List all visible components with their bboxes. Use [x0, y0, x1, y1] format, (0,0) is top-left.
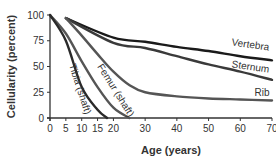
series-label: Tibia (shaft): [67, 62, 94, 115]
x-tick-label: 30: [140, 123, 152, 134]
series-label: Sternum: [231, 58, 270, 74]
y-axis-label: Cellularity (percent): [5, 15, 17, 119]
x-axis-label: Age (years): [141, 144, 201, 156]
y-tick-label: 0: [38, 113, 44, 124]
y-tick-label: 50: [33, 61, 45, 72]
x-tick-label: 70: [266, 123, 276, 134]
x-tick-label: 0: [47, 123, 53, 134]
x-tick-label: 50: [203, 123, 215, 134]
series-label: Vertebra: [231, 36, 270, 52]
x-tick-label: 10: [76, 123, 88, 134]
x-tick-label: 15: [92, 123, 104, 134]
line-chart: 0255075100051015203040506070Age (years)C…: [0, 0, 276, 160]
y-tick-label: 100: [27, 10, 44, 21]
x-tick-label: 40: [171, 123, 183, 134]
x-tick-label: 5: [63, 123, 69, 134]
x-tick-label: 20: [108, 123, 120, 134]
series-label: Rib: [254, 87, 269, 98]
y-tick-label: 75: [33, 35, 45, 46]
x-tick-label: 60: [235, 123, 247, 134]
y-tick-label: 25: [33, 87, 45, 98]
